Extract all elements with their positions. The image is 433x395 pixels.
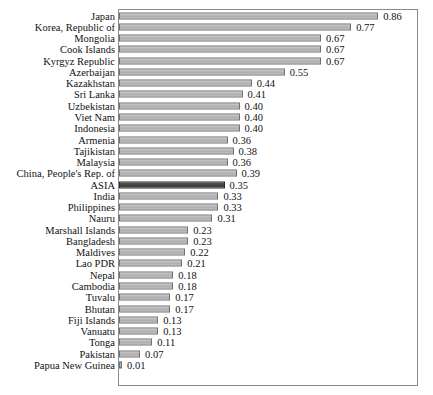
bar-row: Indonesia0.40	[0, 123, 433, 134]
bar-value-label: 0.55	[290, 66, 308, 77]
bar-category-label: Japan	[91, 10, 115, 21]
bar-category-label: Tajikistan	[74, 145, 115, 156]
bar-category-label: Philippines	[68, 202, 115, 213]
bar-track	[119, 102, 240, 109]
bar-value-label: 0.38	[239, 145, 257, 156]
bar-row: Tajikistan0.38	[0, 145, 433, 156]
bar-value-label: 0.23	[193, 235, 211, 246]
bar-category-label: China, People's Rep. of	[17, 168, 115, 179]
bar-track	[119, 170, 237, 177]
bar-row: Lao PDR0.21	[0, 258, 433, 269]
bar-row: ASIA0.35	[0, 179, 433, 190]
bar-value-label: 0.01	[127, 359, 145, 370]
bar-category-label: Cook Islands	[60, 44, 115, 55]
bar-row: Viet Nam0.40	[0, 111, 433, 122]
bar-track	[119, 68, 285, 75]
bar-rows-container: Japan0.86Korea, Republic of0.77Mongolia0…	[0, 10, 433, 385]
bar	[119, 316, 158, 323]
bar-value-label: 0.23	[193, 224, 211, 235]
bar-category-label: Azerbaijan	[69, 66, 115, 77]
bar-category-label: Bangladesh	[66, 235, 115, 246]
bar-category-label: Viet Nam	[75, 112, 115, 123]
bar	[119, 68, 285, 75]
bar-value-label: 0.36	[233, 134, 251, 145]
bar-value-label: 0.40	[245, 100, 263, 111]
bar-row: Cambodia0.18	[0, 280, 433, 291]
bar-track	[119, 23, 351, 30]
bar-value-label: 0.67	[326, 44, 344, 55]
bar-row: Cook Islands0.67	[0, 44, 433, 55]
bar-track	[119, 339, 152, 346]
bar-track	[119, 12, 378, 19]
bar-track	[119, 249, 185, 256]
bar-category-label: Marshall Islands	[45, 224, 115, 235]
bar-category-label: Cambodia	[72, 281, 115, 292]
bar-track	[119, 350, 140, 357]
chart-title-cropped	[6, 0, 426, 2]
bar	[119, 170, 237, 177]
bar-row: Korea, Republic of0.77	[0, 21, 433, 32]
bar-track	[119, 125, 240, 132]
bar-track	[119, 91, 243, 98]
bar-track	[119, 181, 225, 188]
bar-row: Fiji Islands0.13	[0, 314, 433, 325]
bar-row: Armenia0.36	[0, 134, 433, 145]
bar-row: Philippines0.33	[0, 202, 433, 213]
bar-value-label: 0.17	[175, 303, 193, 314]
bar-value-label: 0.18	[178, 269, 196, 280]
bar-row: Sri Lanka0.41	[0, 89, 433, 100]
bar-value-label: 0.17	[175, 292, 193, 303]
bar-value-label: 0.33	[223, 202, 241, 213]
bar-row: Japan0.86	[0, 10, 433, 21]
bar-row: China, People's Rep. of0.39	[0, 168, 433, 179]
bar-category-label: Papua New Guinea	[34, 359, 115, 370]
bar-value-label: 0.11	[157, 337, 175, 348]
bar	[119, 328, 158, 335]
bar-value-label: 0.33	[223, 190, 241, 201]
bar-row: Vanuatu0.13	[0, 325, 433, 336]
bar	[119, 46, 321, 53]
bar-category-label: Nauru	[89, 213, 115, 224]
bar-track	[119, 80, 252, 87]
bar-row: India0.33	[0, 190, 433, 201]
bar-category-label: Maldives	[76, 247, 115, 258]
bar-value-label: 0.40	[245, 112, 263, 123]
bar-value-label: 0.41	[248, 89, 266, 100]
bar-value-label: 0.36	[233, 157, 251, 168]
bar-value-label: 0.86	[383, 10, 401, 21]
bar-category-label: Kazakhstan	[66, 78, 115, 89]
bar	[119, 136, 228, 143]
bar-category-label: Tonga	[89, 337, 115, 348]
bar	[119, 57, 321, 64]
bar-track	[119, 328, 158, 335]
bar-value-label: 0.31	[217, 213, 235, 224]
bar	[119, 215, 212, 222]
bar-chart-figure: Japan0.86Korea, Republic of0.77Mongolia0…	[0, 0, 433, 395]
bar-category-label: Uzbekistan	[68, 100, 115, 111]
bar-category-label: Bhutan	[85, 303, 115, 314]
bar-category-label: Pakistan	[79, 348, 115, 359]
bar-category-label: Fiji Islands	[68, 314, 115, 325]
bar	[119, 361, 122, 368]
bar	[119, 294, 170, 301]
bar-track	[119, 136, 228, 143]
bar-category-label: Tuvalu	[86, 292, 115, 303]
bar-category-label: India	[93, 190, 115, 201]
bar-row: Maldives0.22	[0, 247, 433, 258]
bar-track	[119, 215, 212, 222]
bar	[119, 350, 140, 357]
bar-value-label: 0.35	[230, 179, 248, 190]
bar-category-label: Lao PDR	[76, 258, 115, 269]
bar	[119, 192, 218, 199]
bar-row: Tonga0.11	[0, 337, 433, 348]
bar-row: Bangladesh0.23	[0, 235, 433, 246]
bar-track	[119, 204, 218, 211]
bar-category-label: ASIA	[90, 179, 115, 190]
bar-row: Mongolia0.67	[0, 33, 433, 44]
bar-track	[119, 46, 321, 53]
bar	[119, 339, 152, 346]
bar-value-label: 0.77	[356, 21, 374, 32]
bar-category-label: Indonesia	[74, 123, 115, 134]
bar-track	[119, 294, 170, 301]
bar-track	[119, 260, 182, 267]
